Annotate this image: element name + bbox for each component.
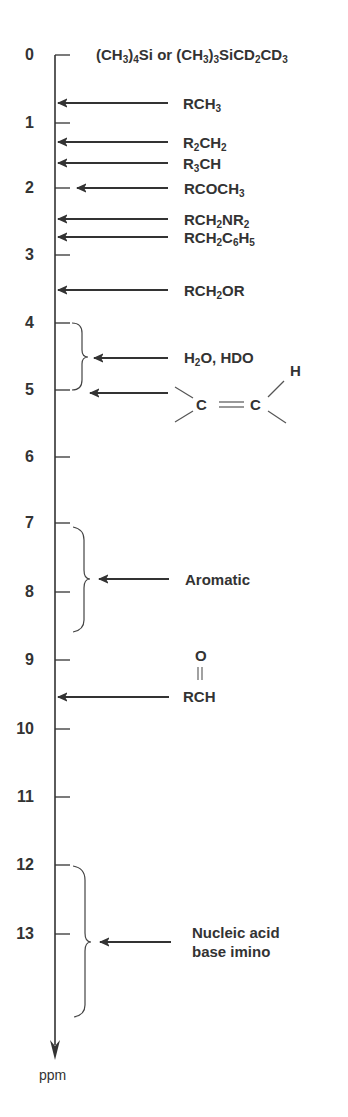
nmr-chemical-shift-diagram: 0 1 2 3 4 5 6 7 8 9 10 11 12 13 (CH3)4Si… [0, 0, 348, 1117]
carbonyl-oxygen: O [195, 647, 207, 664]
diagram-graphics [0, 0, 348, 1117]
label-r2ch2: R2CH2 [183, 134, 227, 151]
label-rch2or: RCH2OR [184, 282, 245, 299]
tick-label-1: 1 [0, 115, 34, 131]
reference-standard-label: (CH3)4Si or (CH3)3SiCD2CD3 [96, 46, 288, 63]
alkene-structure-bonds [175, 381, 286, 423]
label-rch2nr2: RCH2NR2 [184, 211, 249, 228]
tick-label-3: 3 [0, 247, 34, 263]
label-water-hdo: H2O, HDO [184, 349, 254, 366]
alkene-hydrogen: H [290, 362, 301, 379]
label-imino-line2: base imino [192, 943, 270, 960]
tick-label-9: 9 [0, 652, 34, 668]
axis-unit-label: ppm [39, 1067, 66, 1083]
shift-arrows [58, 103, 171, 942]
bracket-7-8.6 [73, 527, 90, 632]
label-aldehyde-rch: RCH [183, 688, 216, 705]
bracket-4-5 [72, 323, 88, 390]
tick-label-10: 10 [0, 721, 34, 737]
tick-label-0: 0 [0, 47, 34, 63]
label-rch3: RCH3 [183, 95, 221, 112]
tick-label-13: 13 [0, 926, 34, 942]
tick-label-12: 12 [0, 857, 34, 873]
tick-label-11: 11 [0, 789, 34, 805]
tick-label-8: 8 [0, 584, 34, 600]
label-imino-line1: Nucleic acid [192, 924, 280, 941]
alkene-carbon-1: C [196, 396, 207, 413]
alkene-carbon-2: C [250, 396, 261, 413]
ppm-axis [50, 55, 60, 1060]
label-aromatic: Aromatic [185, 571, 250, 588]
label-r3ch: R3CH [183, 155, 221, 172]
label-rcoch3: RCOCH3 [184, 180, 245, 197]
axis-ticks [55, 55, 70, 934]
range-brackets [72, 323, 91, 1017]
tick-label-5: 5 [0, 382, 34, 398]
tick-label-6: 6 [0, 449, 34, 465]
tick-label-7: 7 [0, 515, 34, 531]
tick-label-4: 4 [0, 315, 34, 331]
carbonyl-double-bond [198, 667, 202, 680]
tick-label-2: 2 [0, 180, 34, 196]
label-rch2c6h5: RCH2C6H5 [184, 229, 255, 246]
bracket-12-14.3 [73, 866, 91, 1017]
